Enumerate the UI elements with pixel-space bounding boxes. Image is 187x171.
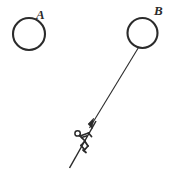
diagram-svg [0, 0, 187, 171]
skier-arm-lower [89, 133, 92, 137]
diagram-canvas: A B [0, 0, 187, 171]
skier-arm-second [82, 136, 87, 138]
stick-figure-skier [75, 131, 92, 153]
circle-b [128, 18, 158, 48]
skier-boot [83, 150, 86, 153]
label-circle-b: B [154, 4, 163, 17]
label-circle-a: A [36, 8, 45, 21]
rope-line [90, 48, 139, 129]
circle-a [13, 18, 45, 50]
